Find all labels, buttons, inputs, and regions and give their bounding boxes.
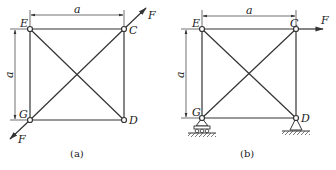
node-label-C: C [290,17,299,30]
force-label-top: F [147,9,156,22]
dimension-label-vertical: a [174,71,187,78]
force-label-bottom: F [17,133,26,146]
joint-D [122,118,127,123]
force-label: F [320,14,329,27]
node-label-E: E [191,17,200,30]
node-label-E: E [19,17,28,30]
figure-a-labels: E C G D a a F F (a) [3,3,156,159]
node-label-G: G [192,106,201,119]
figure-a [10,8,146,139]
joint-D [294,116,299,121]
node-label-D: D [128,114,138,127]
joint-E [200,27,205,32]
truss-diagrams: E C G D a a F F (a) [0,0,336,170]
node-label-D: D [300,112,310,125]
dimension-label-horizontal: a [74,3,81,16]
dimension-label-vertical: a [3,71,16,78]
caption-a: (a) [70,148,84,159]
node-label-G: G [19,108,28,121]
caption-b: (b) [240,148,254,159]
node-label-C: C [129,24,138,37]
dimension-label-horizontal: a [246,4,253,17]
joint-G [28,118,33,123]
joint-E [28,27,33,32]
joint-C [122,27,127,32]
